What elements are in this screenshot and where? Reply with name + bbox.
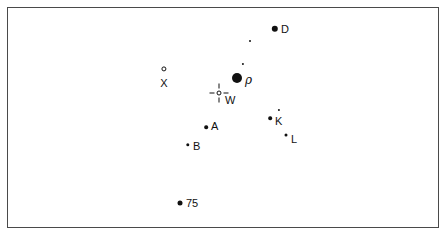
star-label-a: A: [211, 121, 218, 132]
star-marker-75[interactable]: [178, 201, 183, 206]
star-field: DρXKALB75W: [0, 0, 447, 237]
star-label-75: 75: [186, 198, 198, 209]
star-label-b: B: [193, 141, 200, 152]
star-marker-b[interactable]: [186, 143, 189, 146]
reticle-tick: [218, 84, 219, 89]
finder-chart: DρXKALB75W: [0, 0, 447, 237]
star-label-k: K: [275, 116, 282, 127]
reticle-tick: [218, 98, 219, 103]
star-marker-k[interactable]: [268, 116, 272, 120]
star-marker-d[interactable]: [272, 26, 278, 32]
star-label-d: D: [281, 24, 289, 35]
star-label-x: X: [160, 78, 167, 89]
star-marker-dot3[interactable]: [278, 109, 280, 111]
reticle-circle: [216, 90, 221, 95]
star-label-w: W: [225, 95, 235, 106]
star-marker-a[interactable]: [204, 125, 208, 129]
star-marker-dot1[interactable]: [249, 40, 251, 42]
star-marker-dot2[interactable]: [242, 63, 244, 65]
star-marker-x[interactable]: [161, 66, 166, 71]
star-label-l: L: [291, 134, 297, 145]
star-marker-l[interactable]: [285, 134, 288, 137]
star-marker-rho[interactable]: [232, 73, 242, 83]
star-label-rho: ρ: [245, 74, 252, 86]
reticle-tick: [210, 92, 215, 93]
